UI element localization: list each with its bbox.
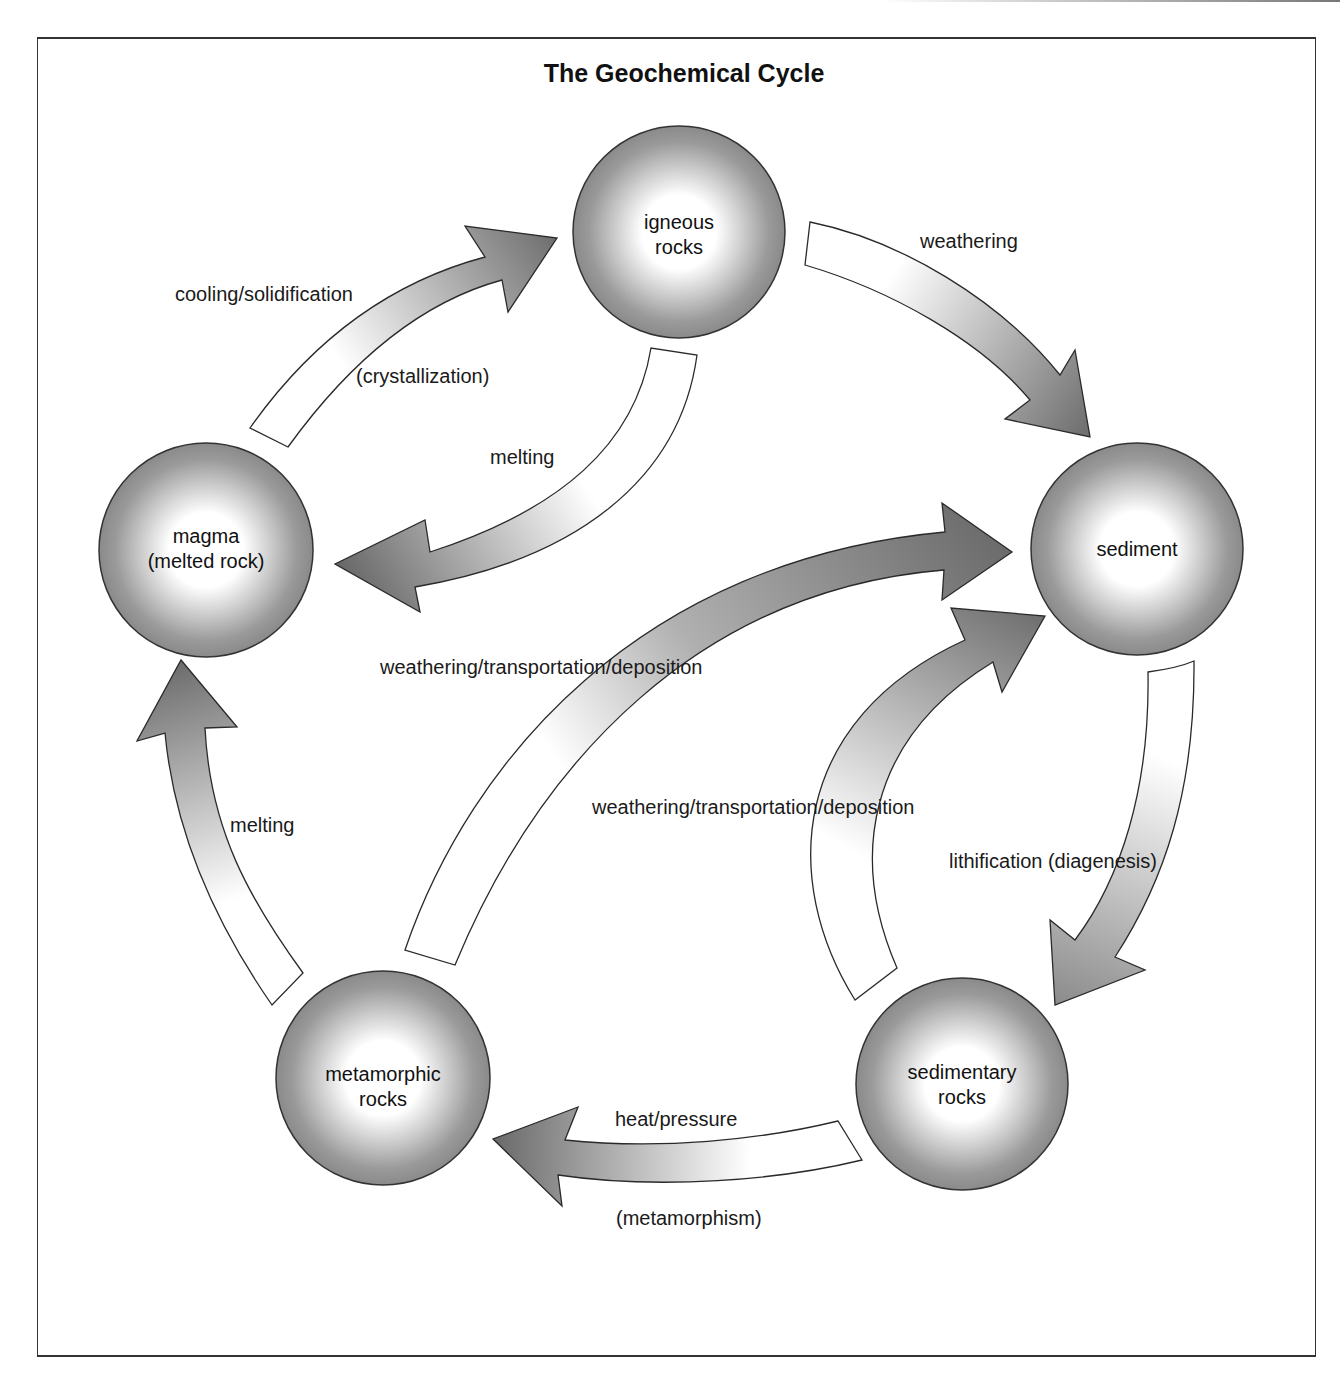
node-igneous-rocks: igneous rocks <box>573 126 785 338</box>
sediment-label: sediment <box>1096 538 1178 560</box>
igneous-label-line1: igneous <box>644 211 714 233</box>
sedimentary-rocks-circle <box>856 978 1068 1190</box>
metamorphic-label-line1: metamorphic <box>325 1063 441 1085</box>
sedimentary-label-line1: sedimentary <box>908 1061 1017 1083</box>
metamorphic-label-line2: rocks <box>359 1088 407 1110</box>
label-heat-pressure: heat/pressure <box>615 1108 737 1130</box>
node-sediment: sediment <box>1031 443 1243 655</box>
magma-label-line1: magma <box>173 525 241 547</box>
label-metamorphism: (metamorphism) <box>616 1207 762 1229</box>
label-wtd-lower: weathering/transportation/deposition <box>591 796 914 818</box>
label-cooling-solidification: cooling/solidification <box>175 283 353 305</box>
diagram-title: The Geochemical Cycle <box>544 59 825 87</box>
node-magma: magma (melted rock) <box>99 443 313 657</box>
label-lithification: lithification (diagenesis) <box>949 850 1157 872</box>
geochemical-cycle-diagram: The Geochemical Cycle igneous rocks sedi… <box>0 0 1344 1378</box>
arrow-melting-igneous-to-magma <box>335 348 697 612</box>
arrow-wtd-metamorphic-to-sediment <box>405 503 1012 965</box>
node-sedimentary-rocks: sedimentary rocks <box>856 978 1068 1190</box>
arrow-cooling-solidification <box>250 226 557 447</box>
arrow-weathering <box>805 222 1090 437</box>
igneous-label-line2: rocks <box>655 236 703 258</box>
label-melting-metamorphic: melting <box>230 814 294 836</box>
label-weathering: weathering <box>919 230 1018 252</box>
label-wtd-upper: weathering/transportation/deposition <box>379 656 702 678</box>
magma-label-line2: (melted rock) <box>148 550 265 572</box>
label-melting-igneous: melting <box>490 446 554 468</box>
label-crystallization: (crystallization) <box>356 365 489 387</box>
arrow-lithification <box>1050 661 1194 1005</box>
sedimentary-label-line2: rocks <box>938 1086 986 1108</box>
node-metamorphic-rocks: metamorphic rocks <box>276 971 490 1185</box>
